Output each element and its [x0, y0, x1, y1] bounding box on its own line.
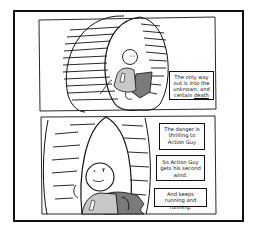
caption-emphasis: death [194, 92, 209, 98]
caption-panel-2-b: So Action Guy gets his second wind. [156, 155, 205, 181]
comic-artwork [0, 0, 255, 233]
caption-panel-2-a: The danger is thrilling to Action Guy [159, 123, 205, 150]
comic-strip: The only way out is into the unknown, an… [0, 0, 255, 233]
caption-panel-1: The only way out is into the unknown, an… [169, 71, 214, 100]
caption-panel-2-c: And keeps running and running. [154, 188, 207, 207]
